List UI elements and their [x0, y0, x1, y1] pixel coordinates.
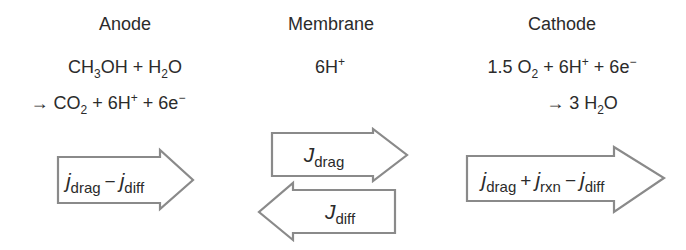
text-segment: + 6H — [87, 93, 131, 113]
flux-subscript: diff — [585, 178, 605, 195]
superscript: + — [338, 55, 345, 69]
flux-symbol: j — [66, 169, 71, 192]
flux-subscript: rxn — [540, 178, 561, 195]
anode-title: Anode — [99, 15, 151, 33]
subscript: 2 — [161, 67, 168, 81]
flux-subscript: diff — [335, 210, 355, 227]
flux-subscript: drag — [486, 178, 516, 195]
subscript: 2 — [597, 103, 604, 117]
cathode-title: Cathode — [528, 15, 596, 33]
anode-reaction-products: → CO2 + 6H+ + 6e− — [31, 94, 186, 112]
text-segment: O — [168, 57, 182, 77]
flux-subscript: diff — [124, 179, 144, 196]
cathode-reaction-reactants: 1.5 O2 + 6H+ + 6e− — [488, 58, 637, 76]
flux-symbol: j — [482, 168, 487, 191]
superscript: − — [178, 91, 185, 105]
operator: − — [101, 171, 120, 192]
membrane-diff-label: Jdiff — [325, 201, 355, 222]
superscript: + — [131, 91, 138, 105]
flux-subscript: drag — [71, 179, 101, 196]
subscript: 2 — [81, 103, 88, 117]
flux-symbol: J — [304, 143, 315, 166]
text-segment: → CO — [31, 93, 81, 113]
cathode-reaction-products: → 3 H2O — [546, 94, 618, 112]
operator: − — [561, 170, 580, 191]
cathode-flux-label: jdrag+jrxn−jdiff — [482, 169, 605, 190]
anode-reaction-reactants: CH3OH + H2O — [68, 58, 182, 76]
text-segment: 1.5 O — [488, 57, 532, 77]
anode-flux-label: jdrag−jdiff — [66, 170, 144, 191]
membrane-drag-label: Jdrag — [304, 144, 345, 165]
text-segment: 6H — [315, 57, 338, 77]
text-segment: + 6e — [138, 93, 179, 113]
membrane-species: 6H+ — [315, 58, 345, 76]
superscript: + — [582, 55, 589, 69]
text-segment: OH + H — [101, 57, 162, 77]
superscript: − — [629, 55, 636, 69]
flux-subscript: drag — [314, 153, 344, 170]
text-segment: → 3 H — [546, 93, 597, 113]
text-segment: + 6e — [589, 57, 630, 77]
flux-symbol: J — [325, 200, 336, 223]
membrane-title: Membrane — [288, 15, 374, 33]
text-segment: O — [604, 93, 618, 113]
operator: + — [516, 170, 535, 191]
text-segment: CH — [68, 57, 94, 77]
subscript: 2 — [532, 67, 539, 81]
subscript: 3 — [94, 67, 101, 81]
text-segment: + 6H — [538, 57, 582, 77]
